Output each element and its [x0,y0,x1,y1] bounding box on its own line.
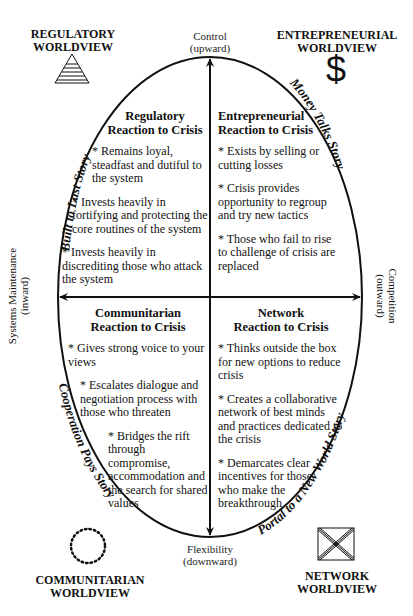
quadrant-regulatory-title: Regulatory Reaction to Crisis [62,109,208,137]
stepped-pyramid-icon [55,54,89,83]
dollar-sign-icon: $ [320,50,352,90]
entrepreneurial-bullet-2: * Crisis provides opportunity to regroup… [218,182,338,223]
quadrant-entrepreneurial: Entrepreneurial Reaction to Crisis * Exi… [218,109,338,283]
quadrant-regulatory-title2: Reaction to Crisis [102,123,208,137]
communitarian-worldview-line2: WORLDVIEW [30,587,150,600]
axis-right-line2: (outward) [375,256,387,336]
quadrant-network: Network Reaction to Crisis * Thinks outs… [218,306,344,521]
crossed-box-icon [318,528,354,560]
communitarian-worldview-label: COMMUNITARIAN WORLDVIEW [30,574,150,600]
quadrant-entrepreneurial-title1: Entrepreneurial [218,109,338,123]
axis-label-left: Systems Maintenance (inward) [6,236,30,356]
regulatory-bullet-2: * Invests heavily in fortifying and prot… [62,196,208,237]
communitarian-bullet-2: * Escalates dialogue and negotiation pro… [68,379,208,420]
quadrant-network-title2: Reaction to Crisis [218,320,344,334]
network-bullet-1: * Thinks outside the box for new options… [218,342,344,383]
network-bullet-3: * Demarcates clear incentives for those … [218,457,318,511]
dotted-circle-icon [71,529,105,563]
network-worldview-label: NETWORK WORLDVIEW [296,570,378,596]
quadrant-regulatory: Regulatory Reaction to Crisis * Remains … [62,109,208,297]
axis-label-right: Competition (outward) [375,256,399,336]
axis-right-line1: Competition [387,256,399,336]
communitarian-bullet-3: * Bridges the rift through compromise, a… [68,430,208,511]
regulatory-worldview-line2: WORLDVIEW [18,41,128,54]
entrepreneurial-bullet-3: * Those who fail to rise to challenge of… [218,233,338,274]
quadrant-regulatory-title1: Regulatory [102,109,208,123]
axis-left-line1: Systems Maintenance [6,236,18,356]
regulatory-worldview-label: REGULATORY WORLDVIEW [18,28,128,54]
quadrant-entrepreneurial-title2: Reaction to Crisis [218,123,338,137]
quadrant-communitarian: Communitarian Reaction to Crisis * Gives… [68,306,208,521]
quadrant-network-title: Network Reaction to Crisis [218,306,344,334]
entrepreneurial-bullet-1: * Exists by selling or cutting losses [218,145,338,172]
regulatory-bullet-1: * Remains loyal, steadfast and dutiful t… [62,145,208,186]
quadrant-network-title1: Network [218,306,344,320]
axis-left-line2: (inward) [18,236,30,356]
network-bullet-2: * Creates a collaborative network of bes… [218,393,344,447]
quadrant-entrepreneurial-title: Entrepreneurial Reaction to Crisis [218,109,338,137]
axis-bottom-line2: (downward) [165,555,255,567]
quadrant-communitarian-title2: Reaction to Crisis [68,320,208,334]
regulatory-bullet-3: * Invests heavily in discrediting those … [62,246,208,287]
quadrant-communitarian-title1: Communitarian [68,306,208,320]
axis-bottom-line1: Flexibility [165,543,255,555]
axis-top-line1: Control [170,30,250,42]
communitarian-bullet-1: * Gives strong voice to your views [68,342,208,369]
quadrant-communitarian-title: Communitarian Reaction to Crisis [68,306,208,334]
axis-label-top: Control (upward) [170,30,250,54]
axis-label-bottom: Flexibility (downward) [165,543,255,567]
network-worldview-line2: WORLDVIEW [296,583,378,596]
axis-top-line2: (upward) [170,42,250,54]
